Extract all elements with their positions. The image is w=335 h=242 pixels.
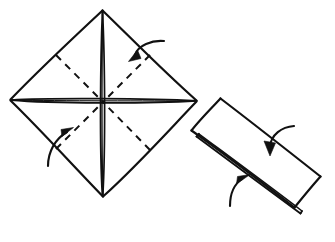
folded-strip-figure [191, 98, 321, 214]
fold-arrow-strip-lower [230, 175, 250, 207]
origami-diagram-svg [0, 0, 335, 242]
origami-diagram-canvas: Origami folding step diagram Square shee… [0, 0, 335, 242]
strip-crease-right-cap [301, 211, 303, 214]
diamond-sheet-figure [10, 10, 197, 197]
fold-arrow-strip-lower-head [237, 175, 251, 185]
folded-strip-surface [191, 98, 321, 208]
